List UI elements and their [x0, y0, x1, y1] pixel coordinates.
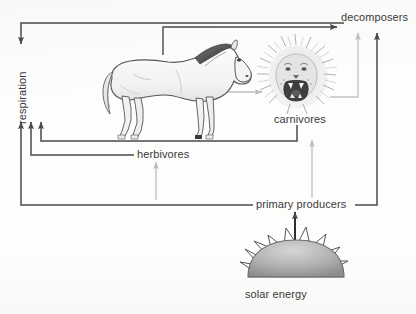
horse-illustration	[103, 40, 251, 139]
flow-carnivores-to-decomposers	[330, 33, 358, 97]
flow-carnivores-to-respiration	[41, 122, 297, 141]
lion-head-illustration	[257, 34, 337, 114]
diagram-canvas	[0, 0, 416, 314]
label-herbivores: herbivores	[137, 148, 189, 160]
label-decomposers: decomposers	[341, 11, 408, 23]
energy-flow-diagram: respiration decomposers carnivores herbi…	[0, 0, 416, 314]
label-carnivores: carnivores	[274, 113, 326, 125]
label-respiration: respiration	[16, 72, 28, 124]
label-primary-producers: primary producers	[256, 198, 346, 210]
label-solar-energy: solar energy	[245, 288, 307, 300]
